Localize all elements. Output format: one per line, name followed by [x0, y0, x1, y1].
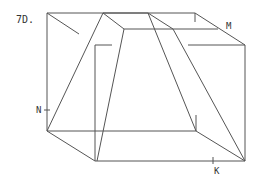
cube-frustum-diagram: 7D. M N K — [0, 0, 257, 182]
frustum-edges — [47, 13, 245, 161]
label-n: N — [36, 105, 41, 115]
problem-number: 7D. — [16, 14, 34, 25]
label-m: M — [226, 21, 232, 31]
label-k: K — [214, 166, 220, 176]
cube-edges — [47, 13, 245, 161]
tick-marks — [44, 110, 213, 164]
